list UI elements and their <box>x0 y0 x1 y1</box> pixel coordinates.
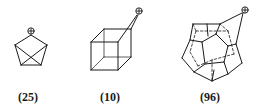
structure-25 <box>15 28 47 65</box>
cation-charge-icon <box>28 28 34 34</box>
structure-label-10: (10) <box>100 90 120 105</box>
structure-label-25: (25) <box>18 90 38 105</box>
cation-charge-icon <box>136 8 142 14</box>
structure-label-96: (96) <box>200 90 220 105</box>
cation-charge-icon <box>242 7 248 13</box>
structure-96 <box>182 7 248 81</box>
molecular-structures-figure <box>0 0 265 111</box>
structure-10 <box>91 8 142 70</box>
